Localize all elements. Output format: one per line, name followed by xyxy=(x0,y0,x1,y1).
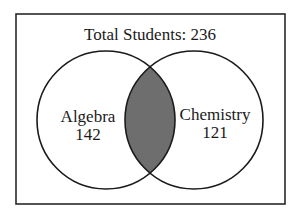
algebra-value: 142 xyxy=(75,125,101,144)
chemistry-value: 121 xyxy=(202,123,228,142)
chemistry-label: Chemistry xyxy=(180,105,251,124)
venn-diagram: Total Students: 236 Algebra 142 Chemistr… xyxy=(0,0,298,214)
algebra-label: Algebra xyxy=(61,107,116,126)
diagram-title: Total Students: 236 xyxy=(84,25,216,44)
